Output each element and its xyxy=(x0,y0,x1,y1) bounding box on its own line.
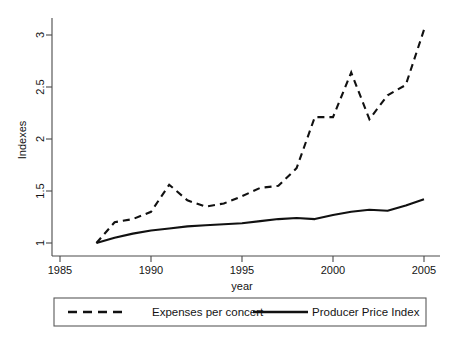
y-tick-label: 2 xyxy=(34,136,46,142)
legend-label-expenses: Expenses per concert xyxy=(152,306,264,318)
series-line-producer-price-index xyxy=(96,199,424,243)
x-tick-label: 2000 xyxy=(321,264,345,276)
x-tick-label: 2005 xyxy=(412,264,436,276)
x-axis-title: year xyxy=(231,280,253,292)
y-tick-label: 3 xyxy=(34,32,46,38)
chart-legend: Expenses per concert Producer Price Inde… xyxy=(54,298,426,326)
x-tick-label: 1995 xyxy=(230,264,254,276)
line-chart: 1 1.5 2 2.5 3 Indexes 1985 1990 1995 200… xyxy=(0,0,455,337)
x-tick-label: 1985 xyxy=(48,264,72,276)
chart-figure: 1 1.5 2 2.5 3 Indexes 1985 1990 1995 200… xyxy=(0,0,455,337)
y-axis-ticks: 1 1.5 2 2.5 3 xyxy=(34,32,52,246)
y-tick-label: 1.5 xyxy=(34,183,46,198)
y-tick-label: 1 xyxy=(34,240,46,246)
x-axis-ticks: 1985 1990 1995 2000 2005 xyxy=(48,256,436,276)
y-axis-title: Indexes xyxy=(16,120,28,159)
legend-label-ppi: Producer Price Index xyxy=(312,306,420,318)
y-tick-label: 2.5 xyxy=(34,79,46,94)
x-tick-label: 1990 xyxy=(139,264,163,276)
